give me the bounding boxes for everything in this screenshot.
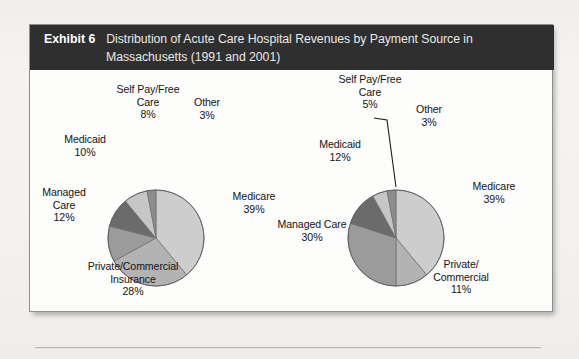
exhibit-header: Exhibit 6Distribution of Acute Care Hosp… [30, 25, 554, 70]
pie-chart-1991: Self Pay/Free Care 8% Other 3% Medicaid … [30, 70, 298, 311]
label-managed-care-2001: Managed Care 30% [260, 218, 364, 243]
label-medicare-2001: Medicare 39% [456, 180, 532, 205]
exhibit-frame: Exhibit 6Distribution of Acute Care Hosp… [29, 24, 553, 312]
exhibit-header-line-1: Exhibit 6Distribution of Acute Care Hosp… [44, 31, 540, 49]
chart-area: Self Pay/Free Care 8% Other 3% Medicaid … [30, 70, 552, 311]
label-private-commercial-2001: Private/ Commercial 11% [412, 258, 510, 296]
leader-line-self-pay-2001 [374, 118, 396, 187]
exhibit-title-line-2: Massachusetts (1991 and 2001) [106, 50, 280, 64]
pie-chart-2001: Self Pay/Free Care 5% Other 3% Medicaid … [298, 70, 552, 311]
label-other-2001: Other 3% [403, 103, 455, 128]
exhibit-header-line-2: Massachusetts (1991 and 2001) [44, 49, 540, 67]
label-medicaid-1991: Medicaid 10% [48, 133, 122, 158]
label-medicaid-2001: Medicaid 12% [303, 138, 377, 163]
label-private-commercial-insurance-1991: Private/Commercial Insurance 28% [68, 260, 198, 298]
label-other-1991: Other 3% [181, 96, 233, 121]
label-managed-care-1991: Managed Care 12% [28, 186, 100, 224]
exhibit-label: Exhibit 6 [44, 32, 95, 46]
page-divider-rule-shadow [35, 348, 541, 349]
exhibit-title-line-1: Distribution of Acute Care Hospital Reve… [106, 32, 473, 46]
label-medicare-1991: Medicare 39% [216, 190, 292, 215]
